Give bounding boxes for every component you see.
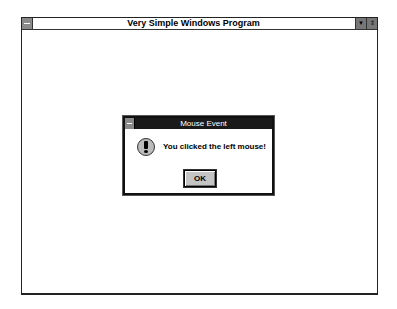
dialog-title-bar[interactable]: Mouse Event xyxy=(125,118,272,129)
dialog-system-menu-icon[interactable] xyxy=(125,118,135,129)
minimize-button[interactable]: ▼ xyxy=(355,18,366,29)
title-bar[interactable]: Very Simple Windows Program ▼ ⇕ xyxy=(22,18,377,30)
dialog-title: Mouse Event xyxy=(135,118,272,129)
system-menu-icon[interactable] xyxy=(22,18,33,29)
dialog-message: You clicked the left mouse! xyxy=(163,142,266,151)
maximize-button[interactable]: ⇕ xyxy=(366,18,377,29)
ok-button[interactable]: OK xyxy=(184,170,216,187)
window-title: Very Simple Windows Program xyxy=(34,17,353,29)
exclamation-icon xyxy=(137,138,155,156)
message-box: Mouse Event You clicked the left mouse! … xyxy=(123,116,274,195)
